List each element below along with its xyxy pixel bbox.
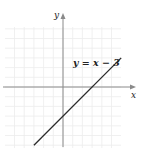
line-y-equals-x-minus-3 bbox=[34, 58, 121, 145]
equation-label: y = x − 3 bbox=[72, 57, 120, 68]
x-axis-label: x bbox=[131, 90, 136, 100]
axes bbox=[3, 13, 136, 147]
chart-canvas: x y y = x − 3 bbox=[0, 0, 142, 157]
y-axis-arrow-icon bbox=[61, 13, 66, 19]
x-axis-arrow-icon bbox=[130, 85, 136, 90]
y-axis-label: y bbox=[53, 10, 60, 20]
